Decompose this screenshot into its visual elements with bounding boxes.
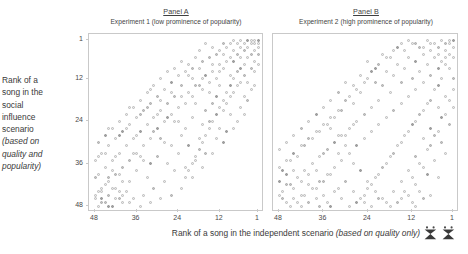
scatter-point <box>329 116 332 119</box>
scatter-point <box>318 155 321 158</box>
scatter-point <box>340 134 343 137</box>
scatter-point <box>292 187 295 190</box>
x-axis-tick-label: 1 <box>248 214 266 221</box>
scatter-point <box>191 176 194 179</box>
scatter-point <box>104 183 107 186</box>
scatter-point <box>166 102 169 105</box>
scatter-point <box>433 56 436 59</box>
scatter-point <box>236 53 239 56</box>
scatter-point <box>340 109 343 112</box>
y-axis-tick-label: 48 <box>67 201 83 208</box>
scatter-point <box>426 102 429 105</box>
scatter-point <box>366 77 369 80</box>
scatter-point <box>163 120 166 123</box>
scatter-point <box>440 60 443 63</box>
scatter-point <box>440 77 443 80</box>
scatter-point <box>285 201 288 204</box>
scatter-point <box>329 205 332 208</box>
x-axis-tick-label: 48 <box>85 214 103 221</box>
scatter-point <box>300 205 303 208</box>
scatter-point <box>229 56 232 59</box>
scatter-point <box>429 42 432 45</box>
scatter-point <box>149 162 152 165</box>
scatter-point <box>322 123 325 126</box>
scatter-point <box>225 102 228 105</box>
scatter-point <box>300 144 303 147</box>
y-axis-label-line-italic: quality and <box>2 148 68 160</box>
panel-a-plot-area <box>88 33 263 211</box>
scatter-point <box>400 102 403 105</box>
scatter-point <box>407 56 410 59</box>
scatter-point <box>208 91 211 94</box>
scatter-point <box>208 56 211 59</box>
scatter-point <box>281 190 284 193</box>
scatter-point <box>407 194 410 197</box>
scatter-point <box>315 197 318 200</box>
scatter-point <box>253 42 256 45</box>
scatter-point <box>173 120 176 123</box>
scatter-point <box>236 120 239 123</box>
scatter-point <box>253 70 256 73</box>
scatter-point <box>246 99 249 102</box>
scatter-point <box>385 201 388 204</box>
scatter-point <box>315 187 318 190</box>
scatter-point <box>139 205 142 208</box>
scatter-point <box>422 109 425 112</box>
scatter-point <box>114 173 117 176</box>
scatter-point <box>437 67 440 70</box>
scatter-point <box>403 49 406 52</box>
scatter-point <box>311 137 314 140</box>
scatter-point <box>403 67 406 70</box>
scatter-point <box>243 63 246 66</box>
scatter-point <box>414 42 417 45</box>
scatter-point <box>355 201 358 204</box>
scatter-point <box>163 88 166 91</box>
scatter-point <box>128 123 131 126</box>
scatter-point <box>191 95 194 98</box>
scatter-point <box>363 137 366 140</box>
scatter-point <box>389 56 392 59</box>
scatter-point <box>422 197 425 200</box>
scatter-point <box>322 194 325 197</box>
scatter-point <box>159 197 162 200</box>
scatter-point <box>239 46 242 49</box>
scatter-point <box>411 42 414 45</box>
scatter-point <box>149 137 152 140</box>
scatter-point <box>135 116 138 119</box>
x-axis-tick-mark <box>94 209 95 212</box>
scatter-point <box>452 106 455 109</box>
scatter-point <box>229 42 232 45</box>
scatter-point <box>125 127 128 130</box>
scatter-point <box>211 46 214 49</box>
scatter-point <box>201 166 204 169</box>
scatter-point <box>289 183 292 186</box>
y-axis-label-line: song in the <box>2 86 68 98</box>
scatter-point <box>337 91 340 94</box>
scatter-point <box>253 60 256 63</box>
scatter-point <box>385 162 388 165</box>
scatter-point <box>132 152 135 155</box>
scatter-point <box>246 56 249 59</box>
scatter-point <box>281 197 284 200</box>
scatter-point <box>407 39 410 42</box>
scatter-point <box>159 99 162 102</box>
scatter-point <box>173 95 176 98</box>
scatter-point <box>118 152 121 155</box>
scatter-point <box>444 56 447 59</box>
scatter-point <box>444 63 447 66</box>
scatter-point <box>411 77 414 80</box>
scatter-point <box>180 134 183 137</box>
scatter-point <box>229 113 232 116</box>
y-axis-tick-mark <box>86 205 89 206</box>
scatter-point <box>100 152 103 155</box>
scatter-point <box>392 109 395 112</box>
scatter-point <box>236 70 239 73</box>
scatter-point <box>152 187 155 190</box>
scatter-point <box>159 137 162 140</box>
scatter-point <box>146 91 149 94</box>
scatter-point <box>225 91 228 94</box>
scatter-point <box>149 88 152 91</box>
x-axis-label-italic: (based on quality only) <box>336 228 420 238</box>
scatter-point <box>366 180 369 183</box>
scatter-point <box>300 180 303 183</box>
